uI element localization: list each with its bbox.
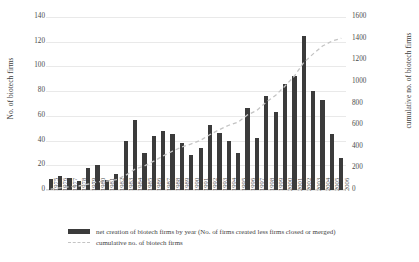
y-axis-left-tick-label: 140	[34, 13, 45, 20]
x-axis-tick-label: 1984	[137, 178, 144, 191]
y-axis-right-tick-label: 1200	[352, 56, 366, 63]
x-axis-tick-label: 1977	[72, 178, 79, 191]
x-axis-tick-label: 2006	[344, 178, 351, 191]
x-axis-tick-label: 1983	[128, 178, 135, 191]
y-axis-left-tick-label: 100	[34, 62, 45, 69]
x-axis-tick-label: 1982	[119, 178, 126, 191]
x-axis-tick-label: 1994	[231, 178, 238, 191]
y-axis-right-tick-label: 200	[352, 164, 363, 171]
x-axis-tick-label: 2000	[287, 178, 294, 191]
x-axis-tick-label: 1987	[166, 178, 173, 191]
y-axis-right-title: cumulative no. of biotech firms	[404, 25, 413, 137]
y-axis-left-tick-label: 40	[38, 137, 45, 144]
x-axis-tick-label: 1981	[109, 178, 116, 191]
x-axis-tick-label: 1990	[194, 178, 201, 191]
x-axis-ticks: 1975197619771978197919801981198219831984…	[46, 191, 346, 225]
cumulative-line-path	[51, 38, 342, 189]
x-axis-tick-label: 2005	[334, 178, 341, 191]
x-axis-tick-label: 1999	[278, 178, 285, 191]
y-axis-left-tick-label: 60	[38, 112, 45, 119]
x-axis-tick-label: 1975	[53, 178, 60, 191]
x-axis-tick-label: 1996	[250, 178, 257, 191]
x-axis-tick-label: 1992	[212, 178, 219, 191]
legend-bar-swatch-icon	[68, 229, 90, 234]
y-axis-right-tick-label: 400	[352, 143, 363, 150]
legend-line-swatch-icon	[68, 242, 90, 243]
chart-legend: net creation of biotech firms by year (N…	[68, 228, 368, 250]
x-axis-tick-label: 1989	[184, 178, 191, 191]
x-axis-tick-label: 1980	[100, 178, 107, 191]
x-axis-tick-label: 1979	[91, 178, 98, 191]
plot-area	[46, 17, 346, 190]
x-axis-tick-label: 1998	[269, 178, 276, 191]
x-axis-tick-label: 1997	[259, 178, 266, 191]
y-axis-left-tick-label: 80	[38, 87, 45, 94]
y-axis-left-tick-label: 0	[41, 186, 45, 193]
x-axis-tick-label: 2001	[297, 178, 304, 191]
y-axis-right-tick-label: 0	[352, 186, 356, 193]
x-axis-tick-label: 1991	[203, 178, 210, 191]
legend-item-net-creation: net creation of biotech firms by year (N…	[68, 228, 368, 235]
x-axis-tick-label: 1988	[175, 178, 182, 191]
x-axis-tick-label: 2003	[316, 178, 323, 191]
x-axis-tick-label: 1976	[62, 178, 69, 191]
y-axis-right-tick-label: 1000	[352, 78, 366, 85]
x-axis-tick-label: 1978	[81, 178, 88, 191]
y-axis-left-title: No. of biotech firms	[6, 41, 15, 137]
legend-item-label: net creation of biotech firms by year (N…	[96, 228, 335, 235]
legend-item-cumulative: cumulative no. of biotech firms	[68, 239, 368, 246]
chart-container: No. of biotech firms cumulative no. of b…	[0, 0, 419, 262]
y-axis-right-tick-label: 600	[352, 121, 363, 128]
x-axis-tick-label: 1985	[147, 178, 154, 191]
y-axis-right-tick-label: 800	[352, 100, 363, 107]
x-axis-tick-label: 1995	[241, 178, 248, 191]
x-axis-tick-label: 1986	[156, 178, 163, 191]
cumulative-line-series	[46, 17, 346, 190]
legend-item-label: cumulative no. of biotech firms	[96, 239, 183, 246]
y-axis-right-tick-label: 1600	[352, 13, 366, 20]
x-axis-tick-label: 1993	[222, 178, 229, 191]
x-axis-tick-label: 2002	[306, 178, 313, 191]
x-axis-tick-label: 2004	[325, 178, 332, 191]
y-axis-left-tick-label: 120	[34, 38, 45, 45]
y-axis-right-tick-label: 1400	[352, 35, 366, 42]
y-axis-left-tick-label: 20	[38, 161, 45, 168]
